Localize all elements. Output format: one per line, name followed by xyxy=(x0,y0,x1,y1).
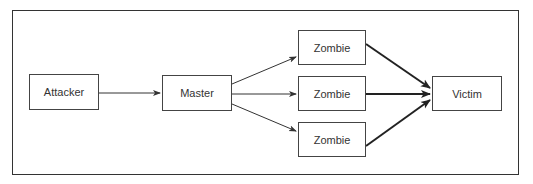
node-zombie-1: Zombie xyxy=(298,30,366,65)
node-label: Victim xyxy=(452,88,482,100)
node-zombie-2: Zombie xyxy=(298,76,366,111)
node-zombie-3: Zombie xyxy=(298,122,366,157)
node-label: Attacker xyxy=(44,86,84,98)
node-victim: Victim xyxy=(432,76,502,111)
node-label: Zombie xyxy=(314,42,351,54)
node-attacker: Attacker xyxy=(29,74,99,110)
node-label: Master xyxy=(180,87,214,99)
node-master: Master xyxy=(162,75,232,111)
arrow-zombie3-victim xyxy=(366,100,430,146)
node-label: Zombie xyxy=(314,88,351,100)
node-label: Zombie xyxy=(314,134,351,146)
arrow-master-zombie3 xyxy=(232,104,296,131)
arrow-zombie1-victim xyxy=(366,44,430,88)
arrow-master-zombie1 xyxy=(232,57,296,84)
